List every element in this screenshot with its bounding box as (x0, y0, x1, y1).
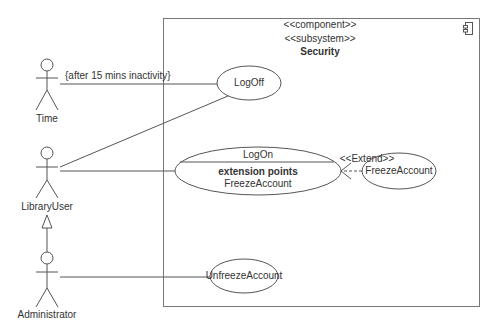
subsystem-name: Security (300, 46, 339, 58)
usecase-unfreeze-label: UnfreezeAccount (206, 270, 283, 282)
extension-point-freeze: FreezeAccount (224, 178, 291, 190)
constraint-label: {after 15 mins inactivity} (65, 70, 171, 82)
actor-administrator-figure (36, 252, 58, 307)
actor-library-user-label: LibraryUser (21, 201, 73, 213)
generalization-arrowhead (42, 215, 52, 228)
usecase-logon-label: LogOn (243, 149, 273, 161)
actor-time-label: Time (36, 113, 58, 125)
extension-points-title: extension points (218, 166, 297, 178)
actor-administrator-label: Administrator (18, 309, 77, 321)
usecase-logoff-label: LogOff (234, 77, 264, 89)
stereotype-component: <<component>> (284, 19, 357, 31)
usecase-freeze-label: FreezeAccount (365, 165, 432, 177)
actor-time-figure (36, 59, 58, 110)
actor-library-user-figure (36, 147, 58, 198)
component-icon (464, 23, 473, 35)
extend-stereotype-label: <<Extend>> (340, 153, 395, 165)
stereotype-subsystem: <<subsystem>> (284, 33, 355, 45)
